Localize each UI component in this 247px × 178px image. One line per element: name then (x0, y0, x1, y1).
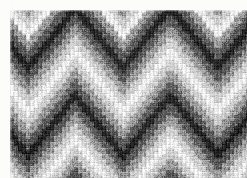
textile-photograph (0, 0, 247, 178)
fabric-blur-wrapper (10, 10, 247, 178)
backing-margin-top-fade (0, 8, 247, 12)
chevron-wave-canvas (10, 10, 247, 178)
backing-margin-left-fade (8, 0, 12, 178)
chevron-wave-pattern (10, 10, 247, 178)
bargello-fabric (10, 10, 247, 178)
